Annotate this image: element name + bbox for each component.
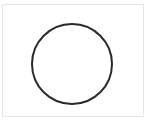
- circle-shape: [32, 24, 112, 104]
- diagram-canvas: [0, 0, 152, 123]
